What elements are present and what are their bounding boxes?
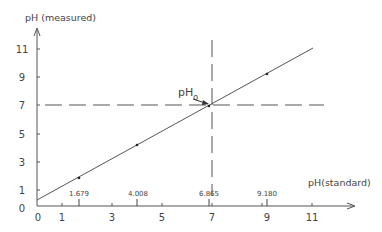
svg-text:1.679: 1.679 bbox=[69, 190, 89, 198]
svg-text:1: 1 bbox=[59, 212, 65, 223]
svg-text:4.008: 4.008 bbox=[128, 190, 148, 198]
svg-text:9.180: 9.180 bbox=[257, 190, 277, 198]
svg-text:0: 0 bbox=[19, 203, 25, 214]
svg-text:3: 3 bbox=[19, 157, 25, 168]
svg-text:9: 9 bbox=[19, 72, 25, 83]
svg-text:3: 3 bbox=[109, 212, 115, 223]
standard-labels: 1.679 4.008 6.865 9.180 bbox=[69, 190, 277, 198]
standard-markers bbox=[79, 199, 267, 206]
svg-text:11: 11 bbox=[306, 212, 319, 223]
svg-text:5: 5 bbox=[19, 129, 25, 140]
y-tick-labels: 0 1 3 5 7 9 11 bbox=[16, 44, 29, 214]
ph-calibration-chart: 0 1 3 5 7 9 11 0 1 3 5 7 9 11 1.679 4.00… bbox=[0, 0, 382, 232]
svg-text:9: 9 bbox=[264, 212, 270, 223]
svg-text:6.865: 6.865 bbox=[199, 190, 219, 198]
ph0-annotation: pHo bbox=[178, 86, 209, 105]
svg-text:7: 7 bbox=[209, 212, 215, 223]
svg-text:1: 1 bbox=[19, 185, 25, 196]
x-axis-title: pH(standard) bbox=[308, 177, 371, 188]
svg-text:11: 11 bbox=[16, 44, 29, 55]
ph0-arrow-icon bbox=[202, 100, 209, 105]
svg-text:7: 7 bbox=[19, 100, 25, 111]
svg-text:5: 5 bbox=[159, 212, 165, 223]
x-tick-labels: 0 1 3 5 7 9 11 bbox=[35, 212, 319, 223]
y-axis-title: pH (measured) bbox=[25, 12, 96, 23]
svg-text:0: 0 bbox=[35, 212, 41, 223]
